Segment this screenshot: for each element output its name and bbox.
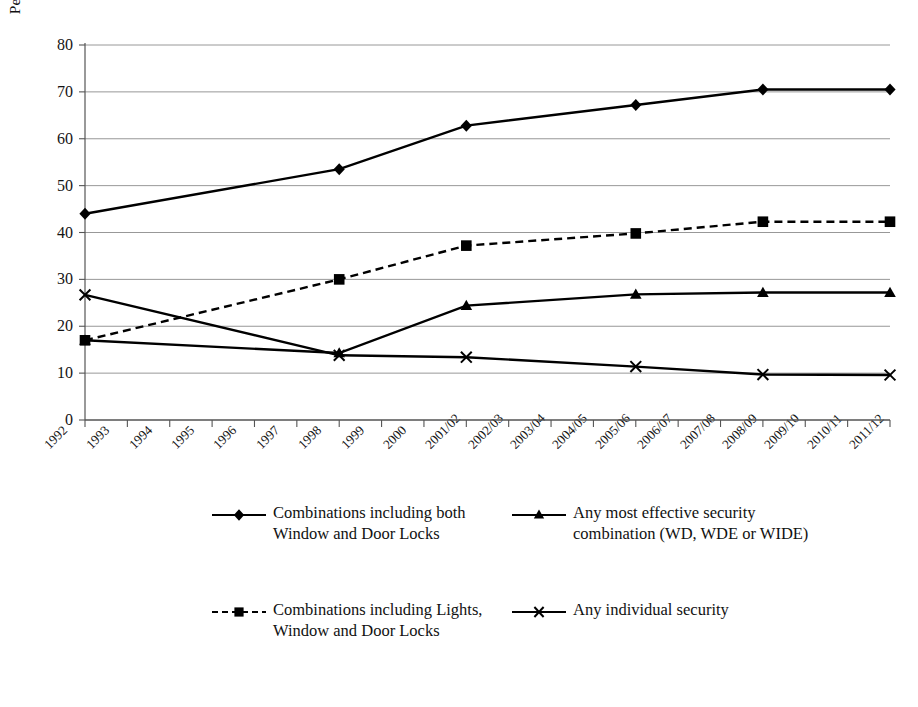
legend-entry-window-door-locks: Combinations including both Window and D… xyxy=(210,503,523,545)
square-data-point xyxy=(334,274,345,285)
diamond-data-point xyxy=(79,208,90,220)
legend-entry-most-effective-combination: Any most effective security combination … xyxy=(510,503,823,545)
legend-entry-any-individual-security: Any individual security xyxy=(510,600,729,622)
diamond-marker xyxy=(210,505,268,525)
legend-label: Any most effective security combination … xyxy=(573,503,823,545)
diamond-data-point xyxy=(757,84,768,96)
triangle-marker xyxy=(510,505,568,525)
diamond-data-point xyxy=(630,99,641,111)
square-data-point xyxy=(885,216,896,227)
diamond-data-point xyxy=(334,163,345,175)
series-line xyxy=(85,295,890,375)
legend-label: Combinations including Lights, Window an… xyxy=(273,600,523,642)
legend-entry-lights-window-door-locks: Combinations including Lights, Window an… xyxy=(210,600,523,642)
square-data-point xyxy=(630,228,641,239)
square-data-point xyxy=(758,216,769,227)
chart-legend: Combinations including both Window and D… xyxy=(210,503,900,693)
square-marker xyxy=(210,602,268,622)
diamond-data-point xyxy=(884,84,895,96)
line-chart: Percentage (%) of households 01020304050… xyxy=(0,0,918,707)
square-data-point xyxy=(461,240,472,251)
legend-label: Combinations including both Window and D… xyxy=(273,503,523,545)
legend-label: Any individual security xyxy=(573,600,729,621)
series-line xyxy=(85,90,890,214)
x-marker xyxy=(510,602,568,622)
diamond-data-point xyxy=(461,120,472,132)
